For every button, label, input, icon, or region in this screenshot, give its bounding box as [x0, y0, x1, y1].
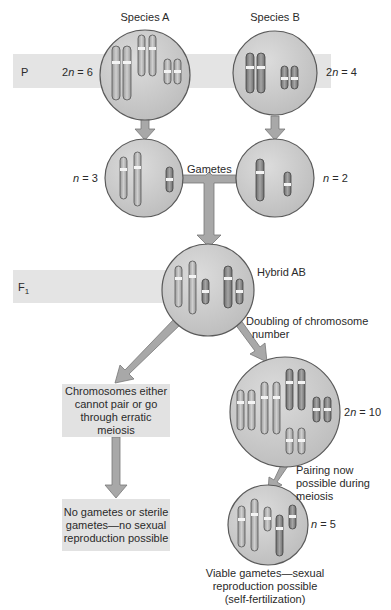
species-b-ploidy: 2n = 4: [326, 66, 357, 79]
species-a-ploidy: 2n = 6: [62, 66, 93, 79]
arrow-species-a-to-gamete: [135, 118, 155, 140]
gamete-a-ploidy: n = 3: [73, 172, 98, 185]
hybrid-ab-cell: [162, 244, 254, 336]
doubling-label: Doubling of chromosome number: [246, 315, 368, 341]
gametes-merge-arrow: [182, 172, 236, 247]
erratic-meiosis-box: Chromosomes either cannot pair or go thr…: [62, 384, 170, 437]
species-b-cell: [233, 31, 317, 115]
hybrid-ab-label: Hybrid AB: [257, 266, 306, 279]
generation-f1-label: F1: [18, 281, 29, 298]
generation-p-label: P: [21, 66, 28, 79]
viable-gamete-ploidy: n = 5: [311, 518, 336, 531]
pairing-label: Pairing now possible during meiosis: [296, 464, 370, 503]
arrow-box1-to-box2: [105, 437, 127, 498]
gamete-a-cell: [105, 139, 183, 217]
species-a-title: Species A: [105, 11, 185, 24]
doubled-ploidy: 2n = 10: [344, 406, 381, 419]
gametes-label: Gametes: [187, 163, 232, 176]
gamete-b-cell: [236, 139, 314, 217]
species-b-title: Species B: [235, 11, 315, 24]
arrow-hybrid-to-sterile: [115, 318, 181, 383]
species-a-cell: [100, 30, 190, 120]
arrow-species-b-to-gamete: [265, 116, 285, 140]
doubled-allopolyploid-cell: [230, 357, 340, 467]
gamete-b-ploidy: n = 2: [323, 172, 348, 185]
sterile-gametes-box: No gametes or sterile gametes—no sexual …: [62, 499, 170, 551]
viable-gametes-result: Viable gametes—sexual reproduction possi…: [195, 567, 335, 606]
